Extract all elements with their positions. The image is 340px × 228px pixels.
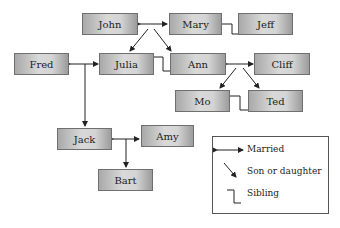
node-ann: Ann	[170, 53, 226, 75]
node-julia: Julia	[99, 53, 154, 75]
node-mo: Mo	[175, 90, 230, 112]
node-mary: Mary	[169, 13, 222, 35]
node-jack: Jack	[57, 128, 112, 150]
legend-sibling-label: Sibling	[247, 188, 279, 198]
node-jeff: Jeff	[238, 13, 293, 35]
node-bart: Bart	[98, 169, 153, 191]
child-arrow-icon	[224, 163, 236, 177]
node-cliff: Cliff	[254, 53, 310, 75]
node-amy: Amy	[141, 125, 194, 147]
sibling-icon	[227, 190, 241, 203]
legend-child-label: Son or daughter	[247, 166, 322, 176]
node-ted: Ted	[248, 90, 303, 112]
node-john: John	[82, 13, 138, 35]
node-fred: Fred	[14, 53, 69, 75]
legend-married-label: Married	[247, 144, 284, 154]
legend: Married Son or daughter Sibling	[212, 136, 329, 214]
